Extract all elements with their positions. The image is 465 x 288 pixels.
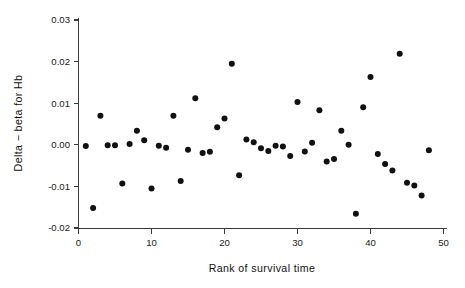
data-point — [134, 128, 140, 134]
x-tick-label: 40 — [365, 237, 376, 248]
data-point — [419, 193, 425, 199]
x-tick-label: 0 — [76, 237, 81, 248]
data-point — [156, 143, 162, 149]
data-point — [200, 150, 206, 156]
data-point — [346, 142, 352, 148]
x-tick-label: 10 — [146, 237, 157, 248]
y-axis-title: Delta − beta for Hb — [12, 75, 24, 172]
y-tick-label: 0.00 — [51, 139, 70, 150]
data-point — [97, 113, 103, 119]
data-point — [105, 142, 111, 148]
data-point — [295, 99, 301, 105]
data-point — [389, 168, 395, 174]
data-point — [265, 148, 271, 154]
data-point — [280, 143, 286, 149]
data-point — [287, 153, 293, 159]
y-tick-label: 0.03 — [51, 14, 70, 25]
data-point — [141, 137, 147, 143]
data-point — [331, 156, 337, 162]
data-point — [302, 148, 308, 154]
data-point — [119, 180, 125, 186]
data-point — [170, 113, 176, 119]
x-axis-ticks: 01020304050 — [76, 229, 449, 249]
data-point — [375, 151, 381, 157]
x-tick-label: 30 — [292, 237, 303, 248]
data-point — [316, 107, 322, 113]
data-point — [192, 95, 198, 101]
plot-canvas: -0.02-0.010.000.010.020.03 01020304050 D… — [0, 0, 465, 288]
data-point — [90, 205, 96, 211]
data-point — [222, 116, 228, 122]
data-point — [243, 136, 249, 142]
data-point — [185, 147, 191, 153]
data-point — [368, 74, 374, 80]
data-point — [127, 141, 133, 147]
data-point — [178, 178, 184, 184]
x-tick-label: 50 — [438, 237, 449, 248]
data-point — [273, 143, 279, 149]
data-point — [83, 143, 89, 149]
y-tick-label: 0.02 — [51, 56, 70, 67]
x-axis-title: Rank of survival time — [209, 262, 316, 274]
data-point — [382, 161, 388, 167]
data-point — [258, 145, 264, 151]
y-tick-label: 0.01 — [51, 98, 70, 109]
data-point — [214, 124, 220, 130]
data-point — [251, 139, 257, 145]
data-point — [207, 149, 213, 155]
data-point — [360, 104, 366, 110]
data-point — [112, 142, 118, 148]
data-point-group — [83, 51, 432, 217]
data-point — [397, 51, 403, 57]
y-tick-label: -0.02 — [48, 222, 70, 233]
y-axis-ticks: -0.02-0.010.000.010.020.03 — [48, 14, 78, 233]
data-point — [426, 147, 432, 153]
data-point — [309, 140, 315, 146]
x-tick-label: 20 — [219, 237, 230, 248]
data-point — [229, 61, 235, 67]
data-point — [411, 183, 417, 189]
data-point — [324, 158, 330, 164]
data-point — [404, 180, 410, 186]
data-point — [163, 145, 169, 151]
y-tick-label: -0.01 — [48, 181, 70, 192]
data-point — [353, 211, 359, 217]
data-point — [149, 185, 155, 191]
scatter-plot-figure: -0.02-0.010.000.010.020.03 01020304050 D… — [0, 0, 465, 288]
data-point — [236, 172, 242, 178]
axis-group — [79, 18, 448, 229]
data-point — [338, 128, 344, 134]
